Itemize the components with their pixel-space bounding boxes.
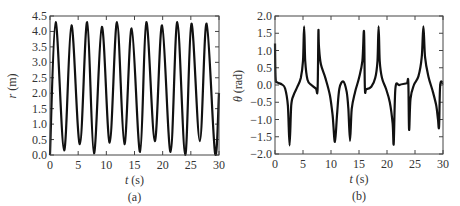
y-tick-label: 3.5 — [32, 40, 47, 54]
x-tick-label: 25 — [185, 158, 197, 172]
x-tick-label: 5 — [300, 157, 306, 171]
x-tick-label: 25 — [409, 157, 421, 171]
x-tick-label: 20 — [381, 157, 393, 171]
chart-a-svg: 0510152025300.00.51.01.52.02.53.03.54.04… — [0, 0, 230, 206]
y-tick-label: −0.5 — [250, 95, 272, 109]
chart-b-caption: (b) — [352, 189, 366, 203]
y-tick-label: 2.0 — [257, 9, 272, 23]
y-tick-label: 1.5 — [32, 102, 47, 116]
y-tick-label: 1.5 — [257, 26, 272, 40]
chart-b-tick-labels: 051015202530−2.0−1.5−1.0−0.50.00.51.01.5… — [250, 9, 449, 171]
x-tick-label: 0 — [272, 157, 278, 171]
chart-b-frame — [275, 16, 443, 154]
chart-a-line — [50, 22, 219, 155]
x-tick-label: 10 — [100, 158, 112, 172]
y-tick-label: 0.5 — [257, 61, 272, 75]
x-tick-label: 15 — [353, 157, 365, 171]
chart-b-svg: 051015202530−2.0−1.5−1.0−0.50.00.51.01.5… — [230, 0, 460, 206]
x-tick-label: 30 — [213, 158, 225, 172]
chart-b-ylabel: θ (rad) — [231, 70, 245, 102]
y-tick-label: −1.0 — [250, 113, 272, 127]
y-tick-label: 4.0 — [32, 24, 47, 38]
y-tick-label: 0.5 — [32, 133, 47, 147]
y-tick-label: −2.0 — [250, 147, 272, 161]
y-tick-label: 4.5 — [32, 9, 47, 23]
x-tick-label: 10 — [325, 157, 337, 171]
y-tick-label: 2.0 — [32, 86, 47, 100]
chart-panel-a: 0510152025300.00.51.01.52.02.53.03.54.04… — [0, 0, 230, 206]
chart-a-ylabel: r (m) — [5, 73, 19, 98]
chart-panel-b: 051015202530−2.0−1.5−1.0−0.50.00.51.01.5… — [230, 0, 460, 206]
y-tick-label: 3.0 — [32, 55, 47, 69]
y-tick-label: 0.0 — [257, 78, 272, 92]
y-tick-label: 1.0 — [257, 44, 272, 58]
x-tick-label: 15 — [129, 158, 141, 172]
y-tick-label: −1.5 — [250, 130, 272, 144]
chart-a-caption: (a) — [128, 190, 141, 204]
y-tick-label: 0.0 — [32, 148, 47, 162]
chart-b-ticks — [275, 16, 443, 154]
y-tick-label: 2.5 — [32, 71, 47, 85]
x-tick-label: 30 — [437, 157, 449, 171]
x-tick-label: 20 — [157, 158, 169, 172]
chart-b-xlabel: t (s) — [349, 172, 368, 186]
x-tick-label: 5 — [75, 158, 81, 172]
x-tick-label: 0 — [47, 158, 53, 172]
y-tick-label: 1.0 — [32, 117, 47, 131]
chart-a-xlabel: t (s) — [125, 173, 144, 187]
chart-b-line — [275, 26, 443, 145]
